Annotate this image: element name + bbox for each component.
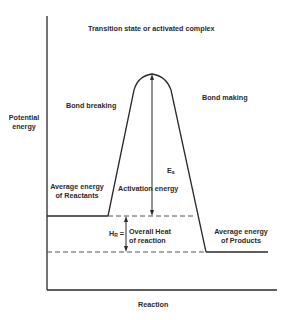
activation-energy-label: Activation energy (118, 184, 178, 193)
arrowhead-down-icon (150, 210, 154, 216)
ea-label: Ea (167, 166, 175, 177)
hr-equals: = (120, 229, 124, 238)
products-label-line2: of Products (212, 236, 270, 245)
arrowhead-up-icon (124, 216, 128, 222)
hr-label: HR = (109, 229, 124, 240)
arrowhead-up-icon (150, 74, 154, 80)
x-axis-label: Reaction (138, 300, 168, 309)
y-axis-label-line2: energy (4, 122, 44, 131)
arrowhead-down-icon (124, 246, 128, 252)
diagram-canvas (0, 0, 291, 320)
reactants-label: Average energy of Reactants (48, 182, 106, 200)
y-axis-label-line1: Potential (4, 113, 44, 122)
energy-curve (108, 74, 206, 252)
hr-subscript: R (114, 232, 118, 238)
energy-diagram: Transition state or activated complex Po… (0, 0, 291, 320)
products-label-line1: Average energy (212, 227, 270, 236)
reactants-label-line2: of Reactants (48, 191, 106, 200)
transition-state-label: Transition state or activated complex (88, 24, 215, 33)
bond-breaking-label: Bond breaking (66, 101, 116, 110)
products-label: Average energy of Products (212, 227, 270, 245)
heat-label-line1: Overall Heat (129, 227, 171, 236)
ea-subscript: a (172, 169, 175, 175)
bond-making-label: Bond making (202, 93, 248, 102)
heat-of-reaction-label: Overall Heat of reaction (129, 227, 171, 245)
heat-label-line2: of reaction (129, 236, 171, 245)
reactants-label-line1: Average energy (48, 182, 106, 191)
y-axis-label: Potential energy (4, 113, 44, 131)
